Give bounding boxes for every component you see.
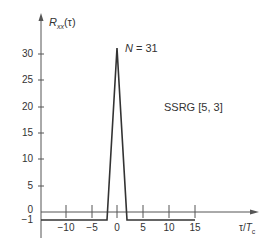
x-tick-0: 0 xyxy=(105,223,129,233)
x-tick-minus5: −5 xyxy=(80,223,104,233)
x-tick-5: 5 xyxy=(131,223,155,233)
y-tick-25: 25 xyxy=(11,75,33,85)
plot-area xyxy=(0,0,272,245)
y-label-main: R xyxy=(49,16,57,28)
y-tick-15: 15 xyxy=(11,128,33,138)
autocorrelation-chart: Rxx(τ) 30 25 20 15 10 5 0 −1 −10 −5 0 5 … xyxy=(0,0,272,245)
x-label-sub: c xyxy=(252,228,256,235)
peak-annotation: N = 31 xyxy=(125,43,158,54)
generator-annotation: SSRG [5, 3] xyxy=(164,102,223,113)
y-axis-label: Rxx(τ) xyxy=(49,17,76,30)
x-tick-15: 15 xyxy=(183,223,207,233)
y-tick-20: 20 xyxy=(11,102,33,112)
x-label-main: τ/ xyxy=(239,222,246,233)
autocorrelation-series xyxy=(41,48,195,220)
y-label-arg: (τ) xyxy=(64,16,76,28)
x-axis-label: τ/Tc xyxy=(239,223,255,235)
y-tick-minus1: −1 xyxy=(11,215,33,225)
x-axis-arrow-icon xyxy=(250,210,259,215)
y-axis-arrow-icon xyxy=(39,13,44,21)
y-tick-10: 10 xyxy=(11,154,33,164)
x-tick-minus10: −10 xyxy=(54,223,78,233)
x-tick-10: 10 xyxy=(157,223,181,233)
y-tick-30: 30 xyxy=(11,49,33,59)
y-label-sub: xx xyxy=(57,23,64,30)
y-tick-5: 5 xyxy=(11,181,33,191)
